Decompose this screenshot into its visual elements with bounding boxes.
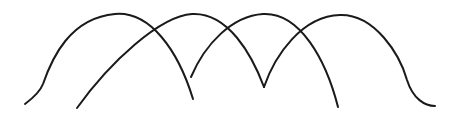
line-drawing-canvas [0,0,456,117]
arc-1-curve [25,14,193,104]
arc-4-curve [264,15,435,106]
arcs-drawing [0,0,456,117]
arc-3-curve [191,14,338,107]
arc-2-curve [77,14,264,108]
